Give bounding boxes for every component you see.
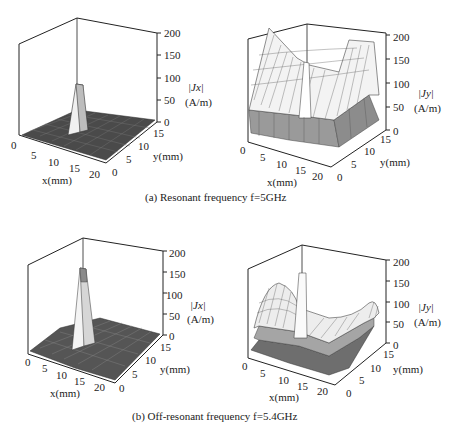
x-tick-5: 5	[31, 150, 37, 161]
z-tick-200: 200	[393, 257, 410, 268]
z-axis-label: |Jy|	[418, 88, 434, 99]
x-tick-0: 0	[25, 357, 31, 368]
z-tick-100: 100	[393, 79, 410, 90]
x-tick-15: 15	[74, 376, 85, 387]
y-tick-5: 5	[359, 375, 365, 386]
x-axis-label: x(mm)	[269, 392, 299, 403]
x-tick-10: 10	[276, 159, 287, 170]
y-tick-10: 10	[145, 355, 156, 366]
y-tick-15: 15	[383, 349, 394, 360]
z-tick-150: 150	[393, 55, 410, 66]
plot-a-jy: 200 150 100 50 0 |Jy| (A/m) 0 5 10 15 20…	[229, 0, 458, 195]
y-tick-10: 10	[138, 141, 149, 152]
x-tick-15: 15	[69, 163, 80, 174]
x-tick-5: 5	[42, 363, 48, 374]
z-tick-150: 150	[164, 50, 181, 61]
x-tick-20: 20	[94, 382, 105, 393]
caption-b: (b) Off-resonant frequency f=5.4GHz	[132, 410, 297, 422]
z-tick-150: 150	[393, 278, 410, 289]
y-tick-15: 15	[380, 134, 391, 145]
y-tick-5: 5	[132, 369, 138, 380]
z-tick-100: 100	[393, 299, 410, 310]
y-tick-0: 0	[119, 383, 125, 394]
z-tick-0: 0	[393, 126, 399, 137]
x-tick-0: 0	[242, 361, 248, 372]
caption-a: (a) Resonant frequency f=5GHz	[145, 191, 287, 203]
y-axis-label: y(mm)	[153, 151, 183, 162]
z-axis-unit: (A/m)	[414, 103, 441, 114]
z-tick-100: 100	[166, 290, 183, 301]
x-tick-5: 5	[260, 152, 266, 163]
z-tick-50: 50	[164, 95, 175, 106]
z-axis-unit: (A/m)	[187, 314, 214, 325]
z-tick-50: 50	[169, 311, 180, 322]
plot-b-jx: 200 150 100 50 0 |Jx| (A/m) 0 5 10 15 20…	[0, 218, 229, 413]
z-axis-label: |Jx|	[188, 82, 204, 93]
x-tick-10: 10	[48, 157, 59, 168]
x-tick-15: 15	[295, 165, 306, 176]
z-axis-label: |Jy|	[418, 302, 434, 313]
y-tick-5: 5	[351, 159, 357, 170]
y-tick-0: 0	[112, 167, 118, 178]
z-tick-0: 0	[164, 117, 170, 128]
y-tick-10: 10	[364, 146, 375, 157]
x-tick-5: 5	[260, 368, 266, 379]
z-tick-150: 150	[169, 269, 186, 280]
x-tick-10: 10	[278, 375, 289, 386]
z-axis-label: |Jx|	[190, 300, 206, 311]
y-tick-15: 15	[153, 128, 164, 139]
plot-b-jy: 200 150 100 50 0 |Jy| (A/m) 0 5 10 15 20…	[229, 218, 458, 413]
x-tick-20: 20	[89, 169, 100, 180]
z-tick-200: 200	[169, 248, 186, 259]
z-tick-200: 200	[164, 28, 181, 39]
y-tick-10: 10	[370, 363, 381, 374]
x-tick-20: 20	[312, 171, 323, 182]
x-axis-label: x(mm)	[42, 175, 72, 186]
plot-a-jx: 200 150 100 50 0 |Jx| (A/m) 0 5 10 15 20…	[0, 0, 229, 195]
z-tick-100: 100	[164, 73, 181, 84]
x-tick-0: 0	[240, 145, 246, 156]
y-tick-15: 15	[160, 342, 171, 353]
x-axis-label: x(mm)	[50, 388, 80, 399]
y-axis-label: y(mm)	[160, 364, 190, 375]
z-axis-unit: (A/m)	[414, 317, 441, 328]
z-tick-50: 50	[393, 319, 404, 330]
z-axis-unit: (A/m)	[185, 97, 212, 108]
y-tick-5: 5	[126, 154, 132, 165]
y-tick-0: 0	[346, 388, 352, 399]
y-axis-label: y(mm)	[380, 157, 410, 168]
y-tick-0: 0	[337, 172, 343, 183]
z-tick-50: 50	[393, 102, 404, 113]
z-tick-200: 200	[393, 32, 410, 43]
y-axis-label: y(mm)	[393, 364, 423, 375]
x-tick-0: 0	[11, 140, 17, 151]
x-tick-20: 20	[317, 386, 328, 397]
x-tick-10: 10	[56, 370, 67, 381]
x-axis-label: x(mm)	[267, 177, 297, 188]
